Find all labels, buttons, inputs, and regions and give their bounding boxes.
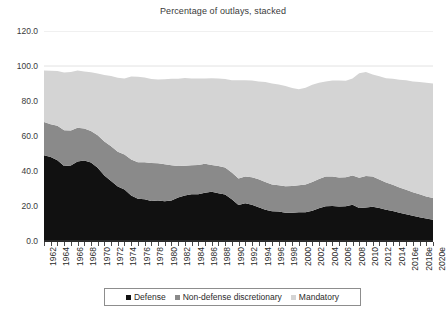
x-axis-label: 2006 — [343, 247, 353, 266]
x-axis-label: 1968 — [88, 247, 98, 266]
x-axis-tick — [218, 242, 219, 246]
page-title: Percentage of outlays, stacked — [0, 6, 446, 16]
x-axis-tick — [359, 242, 360, 246]
legend-item-defense: Defense — [126, 292, 166, 302]
legend-swatch-mandatory — [291, 295, 296, 300]
x-axis-tick — [44, 242, 45, 246]
x-axis-tick — [292, 242, 293, 246]
x-axis-tick — [57, 242, 58, 246]
x-axis-tick — [386, 242, 387, 246]
x-axis-label: 1986 — [209, 247, 219, 266]
x-axis-tick — [171, 242, 172, 246]
x-axis-tick — [158, 242, 159, 246]
y-axis-label: 100.0 — [0, 61, 38, 71]
x-axis-label: 1978 — [155, 247, 165, 266]
x-axis-label: 2018e — [424, 247, 434, 271]
x-axis-labels: 1962196419661968197019721974197619781980… — [44, 247, 433, 287]
x-axis-tick — [91, 242, 92, 246]
x-axis-tick — [145, 242, 146, 246]
x-axis-tick — [205, 242, 206, 246]
y-axis-label: 40.0 — [0, 166, 38, 176]
x-axis-tick — [104, 242, 105, 246]
x-axis-label: 1998 — [289, 247, 299, 266]
x-axis-label: 1976 — [142, 247, 152, 266]
x-axis-tick — [393, 242, 394, 246]
x-axis-tick — [178, 242, 179, 246]
x-axis-label: 1980 — [169, 247, 179, 266]
x-axis-tick — [353, 242, 354, 246]
legend-label-non-defense-discretionary: Non-defense discretionary — [183, 292, 282, 302]
y-axis-label: 80.0 — [0, 96, 38, 106]
x-axis-tick — [285, 242, 286, 246]
x-axis-label: 1962 — [48, 247, 58, 266]
x-axis-tick — [413, 242, 414, 246]
x-axis-label: 1988 — [222, 247, 232, 266]
x-axis-tick — [111, 242, 112, 246]
x-axis-tick — [312, 242, 313, 246]
x-axis-tick — [232, 242, 233, 246]
x-axis-tick — [339, 242, 340, 246]
x-axis-label: 1994 — [263, 247, 273, 266]
x-axis-tick — [406, 242, 407, 246]
x-axis-label: 1992 — [249, 247, 259, 266]
x-axis-tick — [64, 242, 65, 246]
x-axis-label: 1964 — [61, 247, 71, 266]
x-axis-label: 1984 — [196, 247, 206, 266]
x-axis-tick — [433, 242, 434, 246]
x-axis-tick — [185, 242, 186, 246]
x-axis-tick — [118, 242, 119, 246]
x-axis-tick — [98, 242, 99, 246]
x-axis-tick — [373, 242, 374, 246]
x-axis-label: 2008 — [357, 247, 367, 266]
x-axis-tick — [138, 242, 139, 246]
legend-item-non-defense-discretionary: Non-defense discretionary — [175, 292, 282, 302]
x-axis-tick — [259, 242, 260, 246]
y-axis-label: 20.0 — [0, 201, 38, 211]
legend-swatch-non-defense-discretionary — [175, 295, 180, 300]
x-axis-label: 2020e — [437, 247, 446, 271]
x-axis-label: 1966 — [75, 247, 85, 266]
x-axis-label: 2012 — [383, 247, 393, 266]
x-axis-tick — [198, 242, 199, 246]
x-axis-tick — [51, 242, 52, 246]
x-axis-tick — [245, 242, 246, 246]
legend-swatch-defense — [126, 295, 131, 300]
x-axis-tick — [426, 242, 427, 246]
x-axis-tick — [279, 242, 280, 246]
x-axis-tick — [78, 242, 79, 246]
y-axis-label: 120.0 — [0, 26, 38, 36]
y-axis-label: 0.0 — [0, 236, 38, 246]
x-axis-tick — [326, 242, 327, 246]
x-axis-label: 1974 — [128, 247, 138, 266]
x-axis-label: 1996 — [276, 247, 286, 266]
x-axis-ticks — [44, 242, 433, 246]
stacked-area-svg — [44, 31, 433, 241]
x-axis-tick — [366, 242, 367, 246]
x-axis-label: 2010 — [370, 247, 380, 266]
x-axis-label: 1990 — [236, 247, 246, 266]
x-axis-tick — [239, 242, 240, 246]
x-axis-tick — [71, 242, 72, 246]
x-axis-tick — [225, 242, 226, 246]
x-axis-tick — [332, 242, 333, 246]
x-axis-tick — [420, 242, 421, 246]
chart-legend: Defense Non-defense discretionary Mandat… — [104, 288, 361, 306]
x-axis-label: 1972 — [115, 247, 125, 266]
x-axis-label: 1970 — [102, 247, 112, 266]
x-axis-tick — [131, 242, 132, 246]
legend-label-mandatory: Mandatory — [299, 292, 339, 302]
x-axis-tick — [252, 242, 253, 246]
x-axis-tick — [192, 242, 193, 246]
x-axis-tick — [346, 242, 347, 246]
plot-area — [44, 31, 433, 241]
y-axis-label: 60.0 — [0, 131, 38, 141]
x-axis-tick — [399, 242, 400, 246]
x-axis-tick — [379, 242, 380, 246]
legend-item-mandatory: Mandatory — [291, 292, 339, 302]
x-axis-tick — [265, 242, 266, 246]
x-axis-label: 2004 — [330, 247, 340, 266]
x-axis-tick — [165, 242, 166, 246]
x-axis-label: 2000 — [303, 247, 313, 266]
x-axis-tick — [319, 242, 320, 246]
x-axis-tick — [124, 242, 125, 246]
